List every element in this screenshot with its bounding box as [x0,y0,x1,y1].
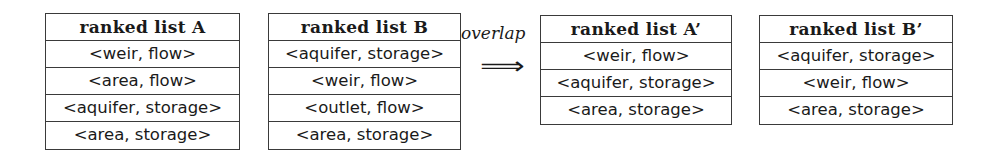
table-row: <weir, flow> [760,70,952,97]
table-row: <aquifer, storage> [760,43,952,70]
double-right-arrow-icon: ⟹ [480,52,525,80]
table-row: <weir, flow> [269,68,460,95]
table-row: <aquifer, storage> [269,41,460,68]
table-row: <area, storage> [46,122,239,149]
table-row: <area, storage> [269,122,460,149]
table-row: <outlet, flow> [269,95,460,122]
ranked-list-a-prime-table: ranked list A’ <weir, flow> <aquifer, st… [540,15,732,125]
table-row: <area, flow> [46,68,239,95]
overlap-label: overlap [461,23,525,43]
table-row: <weir, flow> [541,43,731,70]
table-row: <weir, flow> [46,41,239,68]
table-row: <area, storage> [541,97,731,124]
table-header: ranked list A [46,14,239,41]
ranked-list-a-table: ranked list A <weir, flow> <area, flow> … [45,13,240,150]
ranked-list-b-prime-table: ranked list B’ <aquifer, storage> <weir,… [759,15,953,125]
table-row: <area, storage> [760,97,952,124]
table-header: ranked list B [269,14,460,41]
ranked-list-b-table: ranked list B <aquifer, storage> <weir, … [268,13,461,150]
table-row: <aquifer, storage> [541,70,731,97]
table-header: ranked list B’ [760,16,952,43]
table-row: <aquifer, storage> [46,95,239,122]
table-header: ranked list A’ [541,16,731,43]
